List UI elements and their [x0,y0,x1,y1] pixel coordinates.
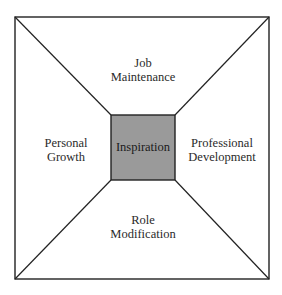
region-left-label: Personal Growth [44,136,87,164]
diagonal-top-left [15,17,111,115]
region-bottom-label: Role Modification [110,213,175,241]
region-left-line1: Personal [44,136,87,150]
region-top-label: Job Maintenance [111,56,176,84]
region-right-line1: Professional [188,136,255,150]
center-label: Inspiration [111,115,175,180]
region-top-line1: Job [111,56,176,70]
region-bottom-line1: Role [110,213,175,227]
center-label-text: Inspiration [116,140,170,155]
region-left-line2: Growth [44,150,87,164]
region-right-label: Professional Development [188,136,255,164]
region-bottom-line2: Modification [110,227,175,241]
diagonal-bottom-right [175,180,269,279]
region-top-line2: Maintenance [111,70,176,84]
diagonal-bottom-left [15,180,111,279]
region-right-line2: Development [188,150,255,164]
diagonal-top-right [175,17,269,115]
